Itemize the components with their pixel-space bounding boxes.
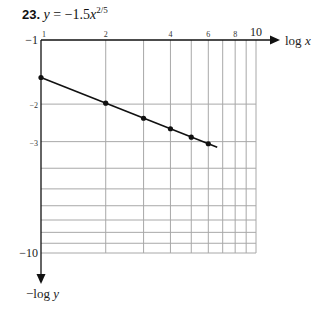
y-axis-arrow-icon: [37, 274, 46, 284]
y-tick-label: −2: [29, 101, 38, 110]
y-axis-label: −log y: [26, 286, 59, 301]
y-tick-label: −10: [19, 246, 38, 260]
x-tick-label: 4: [168, 30, 172, 39]
x-tick-label: 8: [233, 30, 237, 39]
data-series: [38, 75, 217, 147]
tick-labels: log x−log y1246810−1−2−3−10: [19, 25, 311, 301]
data-point: [38, 75, 43, 80]
x-tick-label: 1: [42, 30, 46, 39]
data-point: [141, 116, 146, 121]
x-tick-label: 6: [206, 30, 210, 39]
x-axis-label: log x: [285, 33, 311, 48]
x-tick-label: 10: [250, 25, 262, 39]
data-point: [189, 135, 194, 140]
log-log-chart: log x−log y1246810−1−2−3−10: [0, 0, 320, 312]
axes: [37, 36, 281, 285]
y-tick-label: −3: [29, 139, 38, 148]
data-point: [206, 141, 211, 146]
data-point: [168, 126, 173, 131]
data-point: [103, 101, 108, 106]
y-tick-label: −1: [25, 33, 38, 47]
x-tick-label: 2: [104, 30, 108, 39]
grid-lines: [41, 40, 256, 253]
x-axis-arrow-icon: [270, 36, 280, 45]
